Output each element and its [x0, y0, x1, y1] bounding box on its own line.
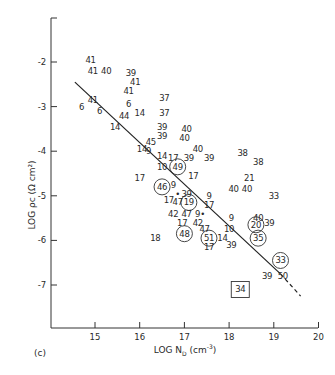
x-tick-label: 19	[268, 333, 279, 342]
x-axis-label-text: LOG ND (cm-3)	[154, 345, 217, 355]
data-point-label: 44	[119, 111, 129, 120]
y-tick-label: -6	[38, 236, 46, 245]
y-tick-label: -4	[38, 147, 46, 156]
data-point-label: 41	[88, 96, 98, 105]
data-point-label: 33	[275, 256, 285, 265]
data-point-label: 50	[278, 272, 288, 281]
data-point-label: 39	[184, 154, 194, 163]
data-point-label: 17	[177, 218, 187, 227]
data-point-label: 38	[237, 149, 247, 158]
x-tick-label: 18	[224, 333, 235, 342]
data-point-label: 48	[179, 229, 189, 238]
scatter-plot-area	[0, 0, 335, 375]
data-point-label: 39	[226, 241, 236, 250]
data-point-label: 17	[188, 171, 198, 180]
data-point-label: 49	[173, 163, 183, 172]
data-point-label: 20	[251, 221, 261, 230]
data-point-label: 34	[235, 285, 245, 294]
data-point-label: 40	[193, 145, 203, 154]
data-point-label: 40	[101, 67, 111, 76]
data-point-label: 38	[253, 158, 263, 167]
data-point-label: 37	[159, 93, 169, 102]
data-point-label: 6	[126, 100, 131, 109]
x-tick-label: 15	[90, 333, 101, 342]
data-point-label: 46	[157, 183, 167, 192]
data-point-label: 39	[264, 218, 274, 227]
data-point-label: 14	[135, 109, 145, 118]
x-tick-label: 17	[179, 333, 190, 342]
x-tick-label: 20	[313, 333, 324, 342]
data-point-label: 18	[150, 234, 160, 243]
data-point-label: 37	[159, 109, 169, 118]
data-point-label: 41	[85, 56, 95, 65]
data-point-label: 19	[184, 198, 194, 207]
data-point-label: 6	[97, 107, 102, 116]
data-point-label: 17	[204, 243, 214, 252]
y-tick-label: -5	[38, 192, 46, 201]
x-tick-label: 16	[134, 333, 145, 342]
data-point-label: 35	[253, 234, 263, 243]
data-point-label: 10	[157, 163, 167, 172]
data-point-label: 21	[244, 174, 254, 183]
data-point-label: 17	[204, 200, 214, 209]
data-point-label: 41	[123, 87, 133, 96]
data-point-label: 9	[146, 147, 151, 156]
data-point-label: 33	[269, 192, 279, 201]
data-point-label: 39	[262, 272, 272, 281]
data-point-label: 41	[88, 67, 98, 76]
y-tick-label: -7	[38, 281, 46, 290]
data-point-label: 40	[179, 134, 189, 143]
data-point-label: 9	[229, 214, 234, 223]
data-point-label: 39	[204, 154, 214, 163]
y-axis-label: LOG ρc (Ω cm²)	[27, 160, 37, 229]
data-point-label: 47	[173, 198, 183, 207]
x-axis-label: LOG ND (cm-3)	[154, 343, 217, 357]
data-point-label: 40	[242, 185, 252, 194]
data-point-label: 39	[157, 131, 167, 140]
data-point-label: 14	[110, 122, 120, 131]
y-tick-label: -3	[38, 102, 46, 111]
data-point-label: 14	[157, 151, 167, 160]
y-tick-label: -2	[38, 58, 46, 67]
data-point-label: 17	[135, 174, 145, 183]
data-point-label: 6	[79, 102, 84, 111]
data-point-label: 40	[228, 185, 238, 194]
panel-label: (c)	[34, 348, 46, 358]
